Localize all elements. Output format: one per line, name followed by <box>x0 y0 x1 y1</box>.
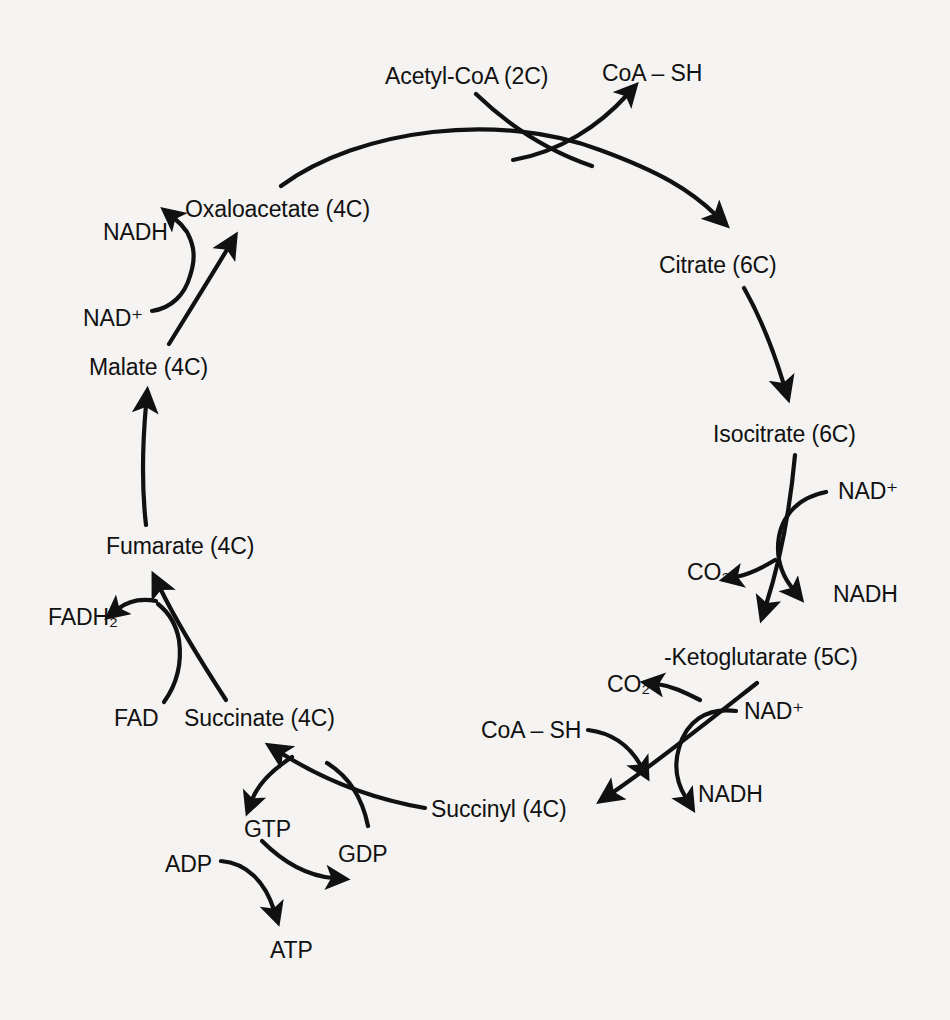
label-acetyl-coa: Acetyl-CoA (2C) <box>385 65 548 88</box>
arrow-co2-out-isocitrate <box>736 560 775 577</box>
label-malate: Malate (4C) <box>89 356 208 379</box>
cycle-arrows-layer <box>0 0 950 1020</box>
arrow-co2-out-ketoglutarate <box>657 684 700 700</box>
arrow-fumarate-to-malate <box>143 405 146 525</box>
arrow-gtp-to-gdp <box>262 841 333 878</box>
arrow-gdp-regenerated <box>327 763 368 826</box>
label-gtp: GTP <box>244 818 291 841</box>
label-fadh2: FADH₂ <box>48 606 118 629</box>
label-coa-sh-top: CoA – SH <box>602 62 702 85</box>
label-co2-isocitrate: CO₂ <box>687 561 730 584</box>
arrow-adp-to-atp <box>221 861 274 910</box>
label-succinyl: Succinyl (4C) <box>431 798 566 821</box>
label-ketoglutarate: -Ketoglutarate (5C) <box>664 646 858 669</box>
arrow-gtp-formed <box>252 757 292 800</box>
label-isocitrate: Isocitrate (6C) <box>713 423 856 446</box>
label-fad: FAD <box>114 707 158 730</box>
label-fumarate: Fumarate (4C) <box>106 535 254 558</box>
label-nadh-ketoglutarate: NADH <box>698 783 763 806</box>
arrow-citrate-to-isocitrate <box>744 288 784 385</box>
label-adp: ADP <box>165 853 212 876</box>
arrow-nadplus-to-nadh-isocitrate <box>778 492 826 589</box>
label-co2-ketoglutarate: CO₂ <box>607 673 650 696</box>
label-gdp: GDP <box>338 843 388 866</box>
label-atp: ATP <box>270 939 313 962</box>
arrow-coa-sh-in-ketoglutarate <box>588 730 641 766</box>
arrow-coa-sh-out <box>513 95 627 160</box>
label-citrate: Citrate (6C) <box>659 254 777 277</box>
label-nadplus-malate: NAD⁺ <box>83 307 143 330</box>
arrow-fadh2-out <box>118 600 156 609</box>
arrow-succinyl-to-succinate <box>281 753 425 808</box>
label-nadh-isocitrate: NADH <box>833 583 898 606</box>
label-nadplus-isocitrate: NAD⁺ <box>838 480 898 503</box>
label-succinate: Succinate (4C) <box>184 707 335 730</box>
label-coa-sh-ketoglutarate: CoA – SH <box>481 719 581 742</box>
citric-acid-cycle-diagram: Oxaloacetate (4C) Citrate (6C) Isocitrat… <box>0 0 950 1020</box>
label-oxaloacetate: Oxaloacetate (4C) <box>185 198 370 221</box>
label-nadplus-ketoglutarate: NAD⁺ <box>744 700 804 723</box>
label-nadh-malate: NADH <box>103 221 168 244</box>
arrow-succinate-to-fumarate <box>160 588 226 700</box>
arrow-nadplus-in-malate <box>152 234 194 311</box>
